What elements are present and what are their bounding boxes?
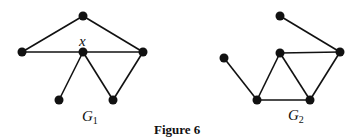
graph-label-g2-subscript: 2 — [299, 114, 304, 125]
edge-g2-3 — [280, 52, 340, 53]
vertex-g1-5 — [109, 96, 118, 105]
vertex-g1-1 — [18, 48, 27, 57]
edge-g1-0 — [22, 16, 83, 52]
vertex-g2-5 — [306, 96, 315, 105]
graph-label-g1-subscript: 1 — [93, 115, 98, 126]
graph-label-g2: G2 — [288, 107, 304, 125]
edge-g2-1 — [224, 58, 257, 100]
graph-label-g1-main: G — [82, 108, 93, 124]
edge-g2-6 — [310, 52, 340, 100]
edge-g1-1 — [83, 16, 143, 52]
edge-g2-4 — [280, 53, 310, 100]
graph-label-g2-main: G — [288, 107, 299, 123]
vertex-g1-3 — [139, 48, 148, 57]
edge-g1-4 — [59, 52, 83, 100]
vertex-g2-0 — [276, 12, 285, 21]
figure-caption: Figure 6 — [154, 122, 200, 138]
edge-g2-0 — [280, 16, 340, 52]
vertex-g2-4 — [253, 96, 262, 105]
graph-canvas — [0, 0, 361, 138]
vertex-g1-0 — [79, 12, 88, 21]
vertex-g2-3 — [336, 48, 345, 57]
vertex-g2-2 — [276, 49, 285, 58]
edge-g1-5 — [83, 52, 113, 100]
vertex-g2-1 — [220, 54, 229, 63]
edge-g1-6 — [113, 52, 143, 100]
vertex-g1-4 — [55, 96, 64, 105]
edge-g2-2 — [257, 53, 280, 100]
graph-label-g1: G1 — [82, 108, 98, 126]
vertex-label-x: x — [79, 33, 86, 50]
